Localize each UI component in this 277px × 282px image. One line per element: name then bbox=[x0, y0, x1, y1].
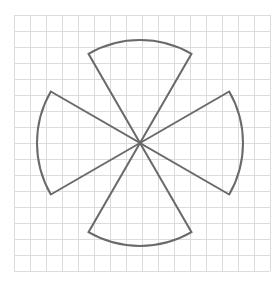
figure-canvas bbox=[0, 0, 277, 282]
sector-down bbox=[89, 143, 192, 246]
sectors-group bbox=[37, 40, 243, 246]
